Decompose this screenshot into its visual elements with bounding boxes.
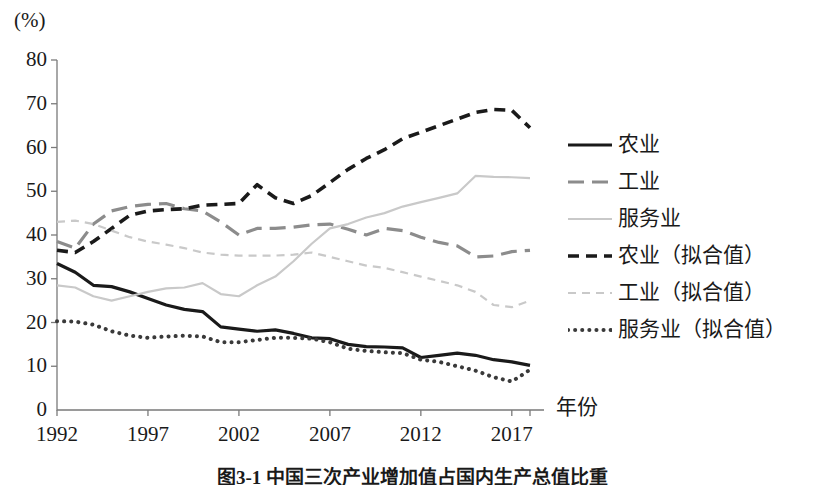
figure-caption: 图3-1 中国三次产业增加值占国内生产总值比重: [0, 462, 825, 485]
series-line-5: [57, 221, 530, 308]
figure-container: (%) 年份 80706050403020100 199219972002200…: [0, 0, 825, 485]
axis-spine: [57, 60, 544, 410]
chart-legend: 农业工业服务业农业（拟合值）工业（拟合值）服务业（拟合值）: [568, 126, 818, 348]
y-axis-tick-label: 50: [5, 178, 47, 203]
legend-label: 工业（拟合值）: [618, 282, 765, 303]
legend-label: 工业: [618, 171, 660, 192]
series-line-1: [57, 263, 530, 365]
y-axis-tick-label: 30: [5, 266, 47, 291]
series-line-2: [57, 204, 530, 257]
x-axis-tick-label: 1992: [22, 422, 92, 447]
series-line-4: [57, 109, 530, 252]
legend-swatch-icon: [568, 175, 612, 189]
x-axis-tick-label: 2007: [295, 422, 365, 447]
y-axis-tick-label: 60: [5, 135, 47, 160]
x-axis-tick-label: 1997: [113, 422, 183, 447]
x-axis-tick-label: 2012: [386, 422, 456, 447]
legend-label: 农业: [618, 134, 660, 155]
x-axis-tick-label: 2002: [204, 422, 274, 447]
legend-item[interactable]: 工业（拟合值）: [568, 274, 818, 311]
legend-item[interactable]: 农业（拟合值）: [568, 237, 818, 274]
y-axis-tick-label: 20: [5, 310, 47, 335]
legend-swatch-icon: [568, 286, 612, 300]
y-axis-tick-label: 80: [5, 47, 47, 72]
legend-label: 服务业: [618, 208, 681, 229]
series-line-6: [57, 321, 530, 381]
legend-item[interactable]: 服务业: [568, 200, 818, 237]
legend-swatch-icon: [568, 323, 612, 337]
y-axis-tick-label: 0: [5, 397, 47, 422]
legend-label: 农业（拟合值）: [618, 245, 765, 266]
legend-item[interactable]: 工业: [568, 163, 818, 200]
legend-label: 服务业（拟合值）: [618, 319, 786, 340]
axes-group: [51, 60, 544, 416]
series-group: [57, 109, 530, 381]
legend-swatch-icon: [568, 212, 612, 226]
x-axis-tick-label: 2017: [477, 422, 547, 447]
y-axis-tick-label: 40: [5, 222, 47, 247]
legend-swatch-icon: [568, 138, 612, 152]
legend-item[interactable]: 服务业（拟合值）: [568, 311, 818, 348]
y-axis-tick-label: 10: [5, 353, 47, 378]
series-line-3: [57, 176, 530, 301]
legend-swatch-icon: [568, 249, 612, 263]
legend-item[interactable]: 农业: [568, 126, 818, 163]
y-axis-tick-label: 70: [5, 91, 47, 116]
